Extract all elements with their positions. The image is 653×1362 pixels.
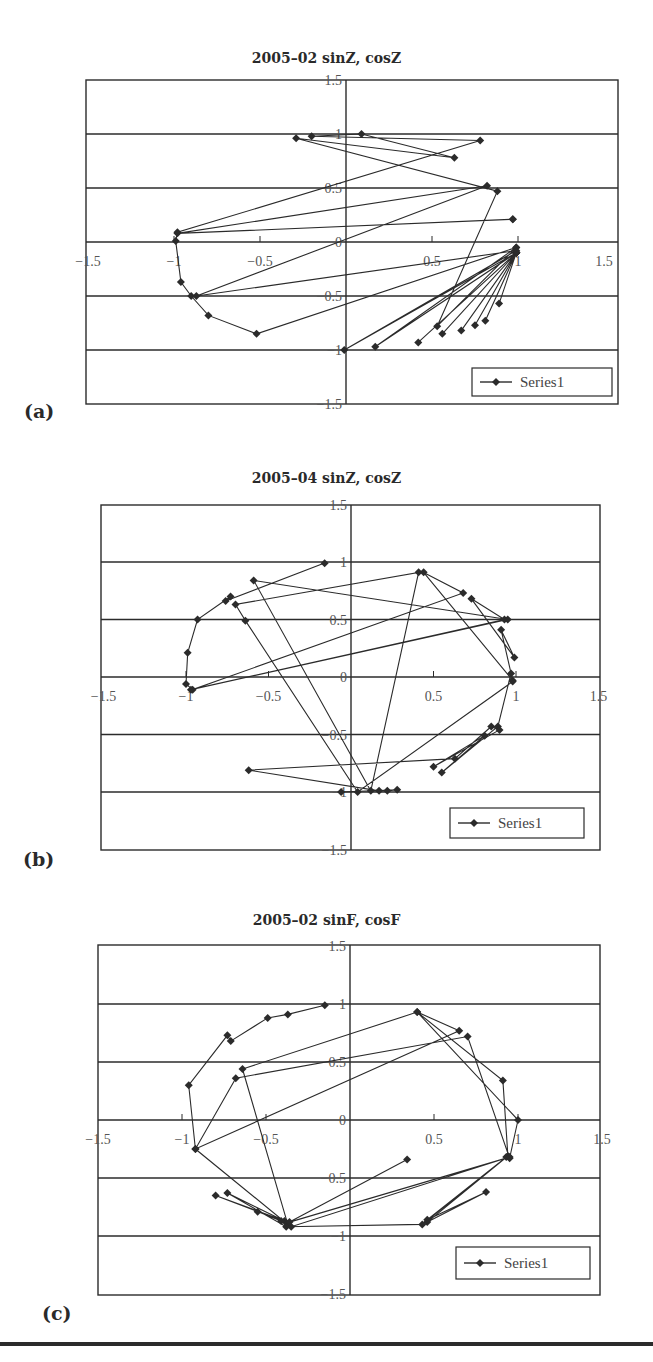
bottom-divider: [0, 1342, 653, 1346]
chart-plot: 1.510.50−0.5−1−1.5−1.5−1−0.50.511.5Serie…: [0, 0, 653, 1340]
y-tick-label: 0: [339, 1113, 346, 1128]
data-point-marker: [284, 1010, 292, 1018]
legend-label: Series1: [504, 1255, 548, 1271]
y-tick-label: −1: [331, 1229, 346, 1244]
x-tick-label: 1.5: [593, 1132, 611, 1147]
legend: Series1: [456, 1247, 590, 1279]
data-point-marker: [264, 1014, 272, 1022]
data-point-marker: [223, 1189, 231, 1197]
chart-panel-c: 2005–02 sinF, cosF 1.510.50−0.5−1−1.5−1.…: [0, 0, 653, 1340]
x-tick-label: −1.5: [85, 1132, 110, 1147]
data-point-marker: [403, 1155, 411, 1163]
data-point-marker: [238, 1065, 246, 1073]
data-point-marker: [212, 1191, 220, 1199]
x-tick-label: −1: [175, 1132, 190, 1147]
data-point-marker: [321, 1001, 329, 1009]
y-tick-label: 1.5: [329, 939, 347, 954]
y-tick-label: −0.5: [321, 1171, 346, 1186]
x-tick-label: −0.5: [253, 1132, 278, 1147]
y-tick-label: 0.5: [329, 1055, 347, 1070]
data-point-marker: [232, 1074, 240, 1082]
data-point-marker: [482, 1188, 490, 1196]
y-tick-label: −1.5: [321, 1287, 346, 1302]
data-point-marker: [464, 1032, 472, 1040]
x-tick-label: 1: [515, 1132, 522, 1147]
panel-label: (c): [42, 1302, 72, 1324]
x-tick-label: 0.5: [425, 1132, 443, 1147]
y-tick-label: 1: [339, 997, 346, 1012]
data-point-marker: [455, 1027, 463, 1035]
